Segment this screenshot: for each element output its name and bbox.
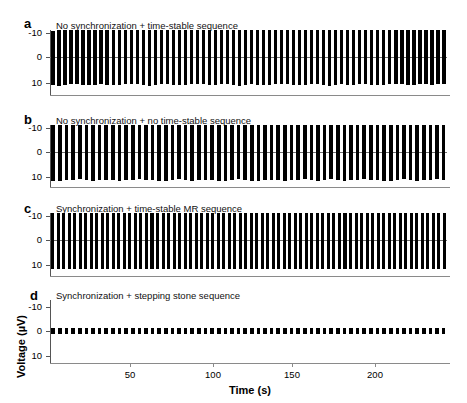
trace-burst	[412, 30, 415, 84]
trace-burst	[394, 30, 397, 84]
trace-burst	[139, 213, 142, 269]
trace-burst	[154, 30, 157, 85]
trace-burst	[296, 125, 300, 180]
trace-burst	[377, 213, 380, 269]
trace-burst	[138, 125, 142, 179]
trace-burst	[166, 30, 169, 84]
trace-burst	[370, 30, 373, 85]
trace-burst	[145, 213, 148, 269]
trace-burst	[197, 125, 201, 180]
trace-burst	[316, 30, 319, 84]
trace-burst	[422, 125, 426, 180]
trace-burst	[435, 328, 439, 334]
trace-burst	[204, 125, 208, 180]
trace-burst	[406, 30, 409, 85]
trace-burst	[283, 125, 287, 181]
trace-burst	[299, 213, 302, 269]
panel-b-axes: -10 0 10	[50, 125, 450, 187]
trace-burst	[356, 328, 360, 334]
trace-burst	[276, 328, 280, 334]
panel-d-xtick-2	[292, 363, 293, 367]
trace-burst	[142, 30, 145, 85]
trace-burst	[356, 125, 360, 180]
trace-burst	[362, 328, 366, 335]
trace-burst	[128, 213, 131, 269]
trace-burst	[160, 30, 163, 84]
trace-burst	[118, 328, 122, 334]
trace-burst	[305, 213, 308, 269]
trace-burst	[296, 328, 300, 335]
trace-burst	[382, 213, 385, 269]
trace-burst	[69, 30, 72, 84]
trace-burst	[255, 213, 258, 269]
trace-burst	[222, 213, 225, 269]
trace-burst	[63, 30, 66, 85]
trace-burst	[99, 30, 102, 84]
trace-burst	[244, 30, 247, 85]
trace-burst	[144, 328, 148, 335]
trace-burst	[436, 30, 439, 84]
trace-burst	[206, 213, 209, 269]
trace-burst	[78, 125, 82, 179]
trace-burst	[329, 328, 333, 335]
trace-burst	[200, 213, 203, 269]
trace-burst	[124, 30, 127, 84]
panel-a-yticklabel-1: 0	[18, 52, 42, 62]
trace-burst	[172, 30, 175, 84]
trace-burst	[228, 213, 231, 269]
trace-burst	[358, 30, 361, 84]
trace-burst	[323, 328, 327, 334]
trace-burst	[217, 125, 221, 181]
trace-burst	[118, 125, 122, 181]
trace-burst	[104, 328, 108, 334]
trace-burst	[226, 30, 229, 84]
trace-burst	[237, 125, 241, 179]
panel-d-trace	[50, 300, 450, 363]
trace-burst	[263, 328, 267, 334]
trace-burst	[184, 125, 188, 180]
trace-burst	[382, 125, 386, 181]
trace-burst	[349, 213, 352, 269]
trace-burst	[112, 30, 115, 85]
trace-burst	[98, 328, 102, 334]
trace-burst	[266, 213, 269, 269]
trace-burst	[371, 213, 374, 269]
trace-burst	[101, 213, 104, 269]
trace-burst	[62, 213, 65, 269]
trace-burst	[430, 30, 433, 85]
trace-burst	[382, 30, 385, 84]
trace-burst	[421, 213, 424, 269]
trace-burst	[51, 213, 54, 269]
trace-burst	[288, 213, 291, 269]
trace-burst	[184, 30, 187, 85]
trace-burst	[91, 328, 95, 334]
trace-burst	[435, 125, 439, 179]
panel-c-yticklabel-2: 10	[18, 260, 42, 270]
trace-burst	[310, 125, 314, 180]
trace-burst	[338, 213, 341, 269]
trace-burst	[298, 30, 301, 85]
trace-burst	[262, 30, 265, 85]
trace-burst	[68, 213, 71, 269]
trace-burst	[81, 30, 84, 85]
trace-burst	[389, 125, 393, 181]
trace-burst	[409, 328, 413, 334]
trace-burst	[310, 328, 314, 334]
trace-burst	[104, 125, 108, 180]
trace-burst	[334, 30, 337, 85]
panel-b-yticklabel-2: 10	[18, 172, 42, 182]
trace-burst	[280, 30, 283, 84]
trace-burst	[150, 213, 153, 269]
trace-burst	[138, 328, 142, 334]
trace-burst	[151, 125, 155, 180]
trace-burst	[124, 125, 128, 180]
trace-burst	[224, 328, 228, 334]
trace-burst	[424, 30, 427, 84]
trace-burst	[93, 30, 96, 85]
trace-burst	[177, 328, 181, 335]
panel-c-x-spine	[50, 276, 450, 277]
trace-burst	[415, 125, 419, 181]
trace-burst	[95, 213, 98, 269]
trace-burst	[232, 30, 235, 85]
trace-burst	[415, 328, 419, 334]
